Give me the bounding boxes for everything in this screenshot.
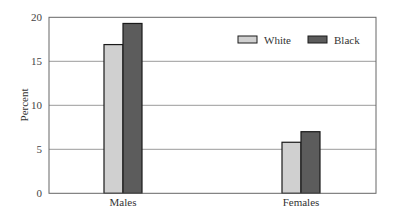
y-tick-label: 10 [31,99,43,111]
y-tick-label: 15 [31,55,43,67]
y-tick-label: 0 [37,187,43,199]
legend-swatch-white [238,36,257,43]
bar-males-black [123,23,142,193]
bar-females-black [301,132,320,194]
legend-swatch-black [308,36,327,43]
bars [104,23,320,193]
y-axis-ticks: 05101520 [31,11,43,199]
bar-chart: 05101520 MalesFemales Percent WhiteBlack [0,0,396,213]
legend: WhiteBlack [238,34,360,46]
bar-males-white [104,45,123,194]
x-category-label: Females [283,196,320,208]
x-category-label: Males [110,196,137,208]
legend-label-white: White [264,34,291,46]
gridlines [49,61,376,149]
y-axis-label: Percent [18,89,30,122]
x-axis-categories: MalesFemales [110,196,320,208]
bar-females-white [282,142,301,193]
y-tick-label: 20 [31,11,43,23]
y-tick-label: 5 [37,143,43,155]
legend-label-black: Black [334,34,360,46]
